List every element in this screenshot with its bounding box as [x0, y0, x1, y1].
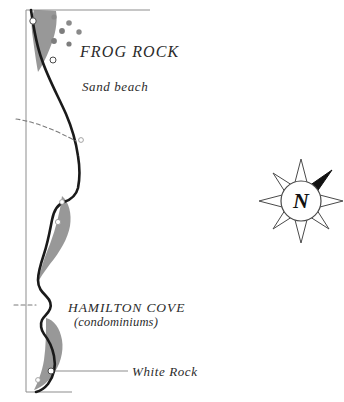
label-hamilton-cove: HAMILTON COVE — [68, 300, 185, 315]
compass-north-letter: N — [292, 188, 310, 213]
map-canvas: N FROG ROCK Sand beach HAMILTON COVE (co… — [0, 0, 344, 402]
label-frog-rock: FROG ROCK — [80, 43, 179, 61]
label-sand-beach: Sand beach — [82, 80, 148, 95]
label-white-rock: White Rock — [132, 365, 198, 380]
shore-fill-mid-coast — [38, 196, 71, 282]
label-hamilton-cove-sublabel: (condominiums) — [74, 315, 158, 329]
compass-rose: N — [259, 159, 343, 243]
trail-upper-dashed — [16, 119, 76, 141]
shore-fill-group — [32, 10, 71, 390]
